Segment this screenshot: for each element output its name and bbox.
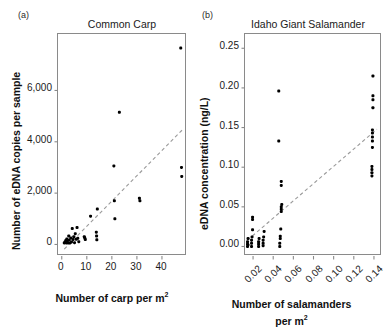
data-point <box>89 215 92 218</box>
panel-letter-b: (b) <box>202 10 213 20</box>
data-point <box>280 184 283 187</box>
data-point <box>251 228 254 231</box>
data-point <box>95 234 98 237</box>
data-point <box>251 235 254 238</box>
data-point <box>370 165 373 168</box>
data-point <box>180 166 183 169</box>
scatter-svg-idaho-giant-salamander <box>245 34 382 256</box>
panel-idaho-giant-salamander: (b) Idaho Giant Salamander eDNA concentr… <box>194 0 388 334</box>
data-point <box>371 128 374 131</box>
data-point <box>77 240 80 243</box>
data-point <box>257 240 260 243</box>
x-tick-label-a-4: 40 <box>146 261 176 272</box>
y-tick-label-b-1: 0.05 <box>194 199 239 210</box>
data-point <box>371 94 374 97</box>
data-point <box>371 136 374 139</box>
data-point <box>262 242 265 245</box>
data-point <box>370 171 373 174</box>
y-axis-title-a: Number of eDNA copies per sample <box>10 72 22 250</box>
data-point <box>96 208 99 211</box>
data-point <box>370 168 373 171</box>
data-point <box>371 146 374 149</box>
data-point <box>250 242 253 245</box>
x-axis-title-b: Number of salamandersper m2 <box>209 298 374 328</box>
data-point <box>278 242 281 245</box>
data-point <box>280 203 283 206</box>
panel-letter-a: (a) <box>18 10 29 20</box>
data-point <box>371 106 374 109</box>
data-point <box>280 180 283 183</box>
data-point <box>258 237 261 240</box>
data-point <box>95 238 98 241</box>
y-tick-label-b-0: 0.00 <box>194 238 239 249</box>
trendline <box>64 130 182 249</box>
data-point <box>180 175 183 178</box>
data-point <box>246 240 249 243</box>
y-tick-label-b-4: 0.20 <box>194 80 239 91</box>
y-tick-label-b-3: 0.15 <box>194 120 239 131</box>
data-point <box>84 238 87 241</box>
data-point <box>277 90 280 93</box>
y-tick-label-a-3: 6,000 <box>5 82 52 93</box>
panel-common-carp: (a) Common Carp Number of eDNA copies pe… <box>0 0 194 334</box>
data-point <box>263 230 266 233</box>
data-point <box>112 164 115 167</box>
data-point <box>262 235 265 238</box>
data-point <box>277 140 280 143</box>
data-point <box>113 217 116 220</box>
data-point <box>247 243 250 246</box>
data-point <box>71 227 74 230</box>
data-point <box>250 239 253 242</box>
data-point <box>72 238 75 241</box>
data-point <box>371 98 374 101</box>
data-point <box>179 47 182 50</box>
x-axis-title-a: Number of carp per m2 <box>32 291 192 304</box>
data-point <box>72 235 75 238</box>
data-point <box>278 245 281 248</box>
data-point <box>262 239 265 242</box>
data-point <box>95 231 98 234</box>
data-point <box>138 197 141 200</box>
trendline <box>248 129 377 240</box>
data-point <box>118 111 121 114</box>
data-point <box>73 241 76 244</box>
data-point <box>76 237 79 240</box>
y-tick-label-a-0: 0 <box>5 236 52 247</box>
panel-title-idaho-giant-salamander: Idaho Giant Salamander <box>232 18 384 30</box>
data-point <box>279 235 282 238</box>
data-point <box>371 132 374 135</box>
data-point <box>279 228 282 231</box>
data-point <box>247 237 250 240</box>
plot-area-common-carp <box>57 33 186 255</box>
y-tick-label-b-2: 0.10 <box>194 159 239 170</box>
data-point <box>371 75 374 78</box>
data-point <box>74 232 77 235</box>
scatter-svg-common-carp <box>58 34 187 256</box>
data-point <box>370 174 373 177</box>
data-point <box>76 226 79 229</box>
y-tick-label-a-1: 2,000 <box>5 185 52 196</box>
data-point <box>250 245 253 248</box>
data-point <box>138 199 141 202</box>
data-point <box>113 199 116 202</box>
plot-area-idaho-giant-salamander <box>244 33 381 255</box>
figure-root: (a) Common Carp Number of eDNA copies pe… <box>0 0 388 334</box>
panel-title-common-carp: Common Carp <box>57 18 187 30</box>
y-tick-label-a-2: 4,000 <box>5 134 52 145</box>
y-tick-label-b-5: 0.25 <box>194 40 239 51</box>
data-point <box>371 140 374 143</box>
data-point <box>251 216 254 219</box>
